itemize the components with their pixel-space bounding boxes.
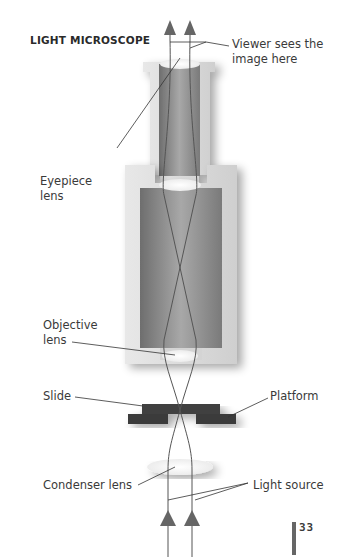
- label-platform: Platform: [270, 389, 319, 404]
- arrow-up-icon: [184, 510, 200, 526]
- label-light-source: Light source: [253, 478, 324, 493]
- page-number-bar: [292, 522, 296, 555]
- condenser-lens: [147, 459, 213, 475]
- stage: [128, 404, 236, 424]
- eyepiece-lens-top: [160, 59, 200, 69]
- label-viewer: Viewer sees the image here: [232, 37, 323, 67]
- platform-right: [196, 414, 236, 424]
- arrow-up-icon: [184, 20, 196, 35]
- objective-lens: [162, 350, 198, 362]
- platform-left: [128, 414, 168, 424]
- label-objective: Objective lens: [43, 318, 98, 348]
- label-condenser: Condenser lens: [43, 478, 132, 493]
- label-slide: Slide: [43, 389, 71, 404]
- microscope-diagram: [0, 0, 342, 557]
- eyepiece-lens: [159, 179, 201, 191]
- label-eyepiece: Eyepiece lens: [40, 174, 92, 204]
- page-number: 33: [299, 521, 314, 534]
- arrow-up-icon: [160, 510, 176, 526]
- diagram-title: LIGHT MICROSCOPE: [30, 34, 150, 46]
- arrow-up-icon: [164, 20, 176, 35]
